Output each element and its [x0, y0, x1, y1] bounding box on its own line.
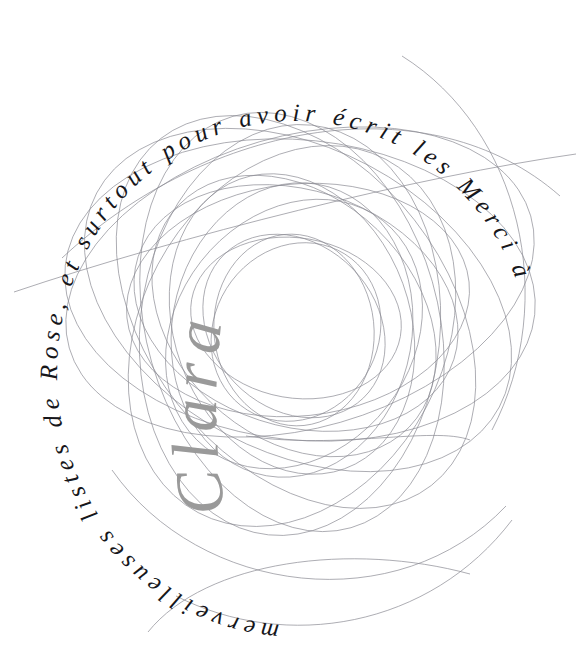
artboard: Clara merveilleuses listes de Rose, et s…	[0, 0, 587, 668]
curve-ellipse-4	[42, 46, 549, 577]
signature-clara: Clara	[157, 307, 239, 520]
curve-ellipse-1	[29, 76, 571, 489]
ellipse-family-outer	[25, 46, 571, 584]
generative-art-canvas: Clara merveilleuses listes de Rose, et s…	[0, 0, 587, 668]
ring-text-outer: merveilleuses listes de Rose, et surtout…	[35, 99, 538, 647]
ellipse-family-inner	[96, 119, 493, 521]
curve-ellipse-10	[96, 119, 493, 514]
curve-ellipse-3	[25, 59, 570, 541]
ring-text-inner: pour l'inspiration	[0, 0, 6, 4]
